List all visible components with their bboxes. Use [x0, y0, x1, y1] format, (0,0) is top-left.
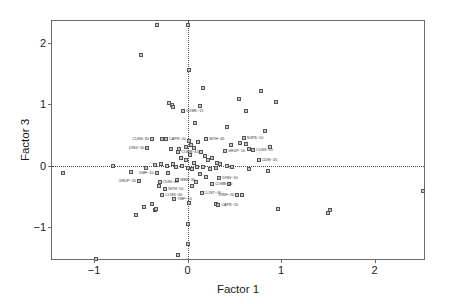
- data-point: [61, 171, 65, 175]
- data-point: [160, 193, 164, 197]
- data-point: [157, 184, 161, 188]
- data-point: [180, 164, 184, 168]
- data-point: [171, 162, 175, 166]
- data-point: [184, 158, 188, 162]
- data-point: [179, 156, 183, 160]
- y-tick-label: 1: [40, 98, 46, 110]
- data-point: [184, 145, 188, 149]
- data-point-label: COMB~20: [215, 182, 233, 186]
- x-tick-label: 0: [185, 264, 191, 276]
- data-point-label: DMF~10: [139, 171, 153, 175]
- data-point: [199, 150, 203, 154]
- data-point: [198, 104, 202, 108]
- data-point: [326, 211, 330, 215]
- data-point: [201, 165, 205, 169]
- data-point: [247, 167, 251, 171]
- data-point: [154, 207, 158, 211]
- data-point: [150, 202, 154, 206]
- data-point-label: CUSS~10: [256, 148, 273, 152]
- data-point: [187, 139, 191, 143]
- data-point: [242, 136, 246, 140]
- data-point-label: DINF~20: [219, 193, 234, 197]
- x-tick-label: −1: [88, 264, 101, 276]
- data-point: [204, 175, 208, 179]
- data-point-label: DINV~30: [222, 176, 237, 180]
- data-point: [176, 150, 180, 154]
- data-point: [229, 143, 233, 147]
- data-point: [240, 193, 244, 197]
- data-point: [169, 147, 173, 151]
- data-point-label: INTH~10: [168, 187, 183, 191]
- data-point: [186, 242, 190, 246]
- data-point-label: COMB~40: [181, 150, 199, 154]
- x-tick-mark: [375, 259, 376, 263]
- data-point-label: CDIN~20: [262, 158, 278, 162]
- data-point: [274, 100, 278, 104]
- data-point: [166, 171, 170, 175]
- data-point: [195, 165, 199, 169]
- data-point: [192, 161, 196, 165]
- data-point: [129, 170, 133, 174]
- data-point: [204, 137, 208, 141]
- data-point: [198, 172, 202, 176]
- y-tick-mark: [48, 166, 52, 167]
- data-point-label: YMF~10: [177, 197, 191, 201]
- y-tick-mark: [48, 227, 52, 228]
- data-point-label: CDIN~40: [163, 180, 179, 184]
- y-axis-title: Factor 3: [19, 119, 31, 161]
- data-point: [174, 165, 178, 169]
- data-point: [218, 162, 222, 166]
- horizontal-zero-reference-line: [52, 166, 424, 167]
- x-tick-mark: [94, 259, 95, 263]
- data-point-label: GRUP~20: [119, 179, 136, 183]
- data-point: [200, 191, 204, 195]
- data-point: [181, 109, 185, 113]
- data-point-label: COSK~40: [165, 193, 182, 197]
- data-point: [165, 164, 169, 168]
- data-point: [214, 166, 218, 170]
- data-point: [201, 86, 205, 90]
- data-point: [235, 193, 239, 197]
- data-point: [186, 166, 190, 170]
- data-point: [186, 23, 190, 27]
- x-tick-mark: [281, 259, 282, 263]
- data-point: [153, 163, 157, 167]
- data-point: [266, 169, 270, 173]
- data-point: [421, 189, 425, 193]
- y-tick-label: −1: [33, 221, 46, 233]
- data-point: [244, 109, 248, 113]
- data-point: [223, 149, 227, 153]
- data-point-label: COMK~15: [186, 109, 204, 113]
- data-point: [137, 179, 141, 183]
- scatter-plot-figure: COMK~15CUSS~30CAPR~20DINV~30COMB~40INTH~…: [0, 0, 450, 304]
- data-point-label: WEB~30: [180, 178, 195, 182]
- data-point: [111, 164, 115, 168]
- x-axis-title: Factor 1: [51, 283, 425, 295]
- data-point: [208, 167, 212, 171]
- data-point: [172, 197, 176, 201]
- y-tick-label: 0: [40, 160, 46, 172]
- data-point: [145, 146, 149, 150]
- data-point: [159, 162, 163, 166]
- data-point: [216, 203, 220, 207]
- data-point: [164, 137, 168, 141]
- data-point: [210, 156, 214, 160]
- data-point-label: CUSS~30: [132, 137, 149, 141]
- y-tick-mark: [48, 43, 52, 44]
- data-point-label: CAPR~10: [221, 203, 238, 207]
- data-point: [238, 141, 242, 145]
- x-tick-mark: [188, 259, 189, 263]
- y-tick-label: 2: [40, 37, 46, 49]
- data-point: [150, 137, 154, 141]
- data-point-label: GRUP~10: [228, 149, 245, 153]
- data-point: [176, 253, 180, 257]
- data-point: [196, 140, 200, 144]
- data-point: [259, 89, 263, 93]
- data-point: [244, 142, 248, 146]
- data-point-label: CAPR~20: [169, 137, 186, 141]
- data-point: [237, 97, 241, 101]
- data-point: [257, 158, 261, 162]
- data-point: [263, 129, 267, 133]
- x-tick-label: 1: [278, 264, 284, 276]
- data-point-label: INTH~40: [209, 137, 224, 141]
